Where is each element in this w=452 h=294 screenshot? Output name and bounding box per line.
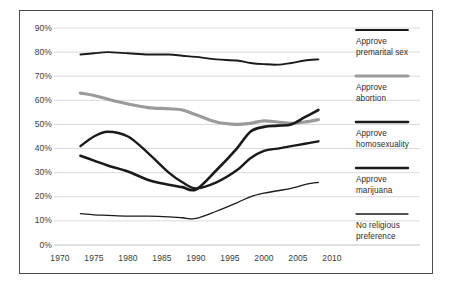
x-axis-tick-label: 2010 (312, 253, 352, 263)
chart-figure: 0%10%20%30%40%50%60%70%80%90%19701975198… (0, 0, 452, 294)
y-axis-tick-label: 30% (18, 167, 52, 177)
legend-label-line2: preference (356, 232, 436, 243)
y-axis-tick-label: 0% (18, 240, 52, 250)
legend-label-line2: homosexuality (356, 140, 436, 151)
legend-item-label: Approvehomosexuality (356, 129, 436, 150)
y-axis-tick-label: 70% (18, 71, 52, 81)
series-line (80, 93, 318, 124)
legend-label-line2: abortion (356, 94, 436, 105)
legend-item-label: Approvepremarital sex (356, 37, 436, 58)
legend-item-label: Approvemarijuana (356, 175, 436, 196)
legend-label-line1: Approve (356, 175, 436, 186)
series-line (80, 52, 318, 65)
legend-item-label: Approveabortion (356, 83, 436, 104)
y-axis-tick-label: 20% (18, 191, 52, 201)
legend-item-label: No religiouspreference (356, 221, 436, 242)
y-axis-tick-label: 50% (18, 119, 52, 129)
legend-label-line1: Approve (356, 83, 436, 94)
y-axis-tick-label: 10% (18, 215, 52, 225)
y-axis-tick-label: 60% (18, 95, 52, 105)
series-line (80, 132, 318, 189)
legend-label-line1: No religious (356, 221, 436, 232)
y-axis-tick-label: 90% (18, 23, 52, 33)
legend-label-line1: Approve (356, 37, 436, 48)
legend-label-line1: Approve (356, 129, 436, 140)
y-axis-tick-label: 80% (18, 47, 52, 57)
legend-label-line2: premarital sex (356, 48, 436, 59)
y-axis-tick-label: 40% (18, 143, 52, 153)
legend-label-line2: marijuana (356, 186, 436, 197)
